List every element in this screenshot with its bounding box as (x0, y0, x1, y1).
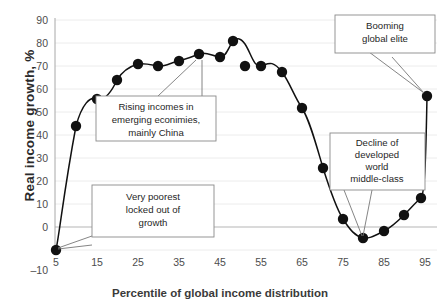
data-point (318, 163, 328, 173)
y-tick-label: 0 (42, 221, 48, 233)
y-tick-label: 60 (36, 83, 48, 95)
y-tick-label: 80 (36, 37, 48, 49)
leader-line (344, 190, 372, 236)
x-axis-title: Percentile of global income distribution (0, 287, 440, 299)
callout-line: Rising incomes in (118, 101, 193, 112)
data-point (174, 56, 184, 66)
x-tick-label: 15 (91, 256, 103, 268)
callout-line: growth (139, 217, 168, 228)
data-point (215, 52, 225, 62)
data-point (71, 121, 81, 131)
data-point (112, 75, 122, 85)
x-tick-label: 65 (296, 256, 308, 268)
x-tick-label: 45 (214, 256, 226, 268)
x-tick-label: 75 (337, 256, 349, 268)
y-tick-label: 70 (36, 60, 48, 72)
callout-rising-incomes: Rising incomes in emerging econimies, ma… (96, 60, 216, 141)
x-tick-label: 5 (53, 256, 59, 268)
y-tick-label: 30 (36, 152, 48, 164)
y-tick-label: 20 (36, 175, 48, 187)
data-point (297, 103, 307, 113)
y-tick-label: 10 (36, 198, 48, 210)
leader-line (369, 52, 424, 93)
data-point (153, 61, 163, 71)
callout-line: global elite (362, 33, 408, 44)
x-tick-label: 35 (173, 256, 185, 268)
x-axis-ticks: 5 15 25 35 45 55 65 75 85 95 (53, 256, 431, 268)
callout-booming-elite: Booming global elite (335, 15, 435, 93)
data-point (256, 61, 266, 71)
data-point (51, 245, 61, 255)
y-tick-label: –10 (30, 264, 48, 276)
x-tick-label: 85 (378, 256, 390, 268)
data-point (228, 36, 238, 46)
x-tick-label: 25 (132, 256, 144, 268)
callout-line: developed (355, 149, 399, 160)
callout-line: Very poorest (126, 191, 180, 202)
data-point (240, 61, 250, 71)
callout-line: world (365, 161, 389, 172)
y-tick-label: 90 (36, 14, 48, 26)
x-tick-label: 55 (255, 256, 267, 268)
data-point (379, 226, 389, 236)
data-point (277, 67, 287, 77)
callout-line: Booming (366, 20, 404, 31)
data-point (416, 193, 426, 203)
data-point (399, 210, 409, 220)
data-point (133, 59, 143, 69)
y-tick-label: 50 (36, 106, 48, 118)
data-point (338, 214, 348, 224)
y-axis-ticks: 90 80 70 60 50 40 30 20 10 0 –10 (30, 14, 48, 276)
callout-line: mainly China (128, 127, 184, 138)
data-point (194, 49, 204, 59)
x-tick-label: 95 (419, 256, 431, 268)
callout-line: Decline of (356, 137, 399, 148)
y-tick-label: 40 (36, 129, 48, 141)
callout-line: middle-class (350, 173, 404, 184)
callout-line: locked out of (126, 204, 181, 215)
leader-line (58, 236, 92, 249)
callout-very-poorest: Very poorest locked out of growth (58, 185, 214, 249)
callout-line: emerging econimies, (112, 114, 201, 125)
